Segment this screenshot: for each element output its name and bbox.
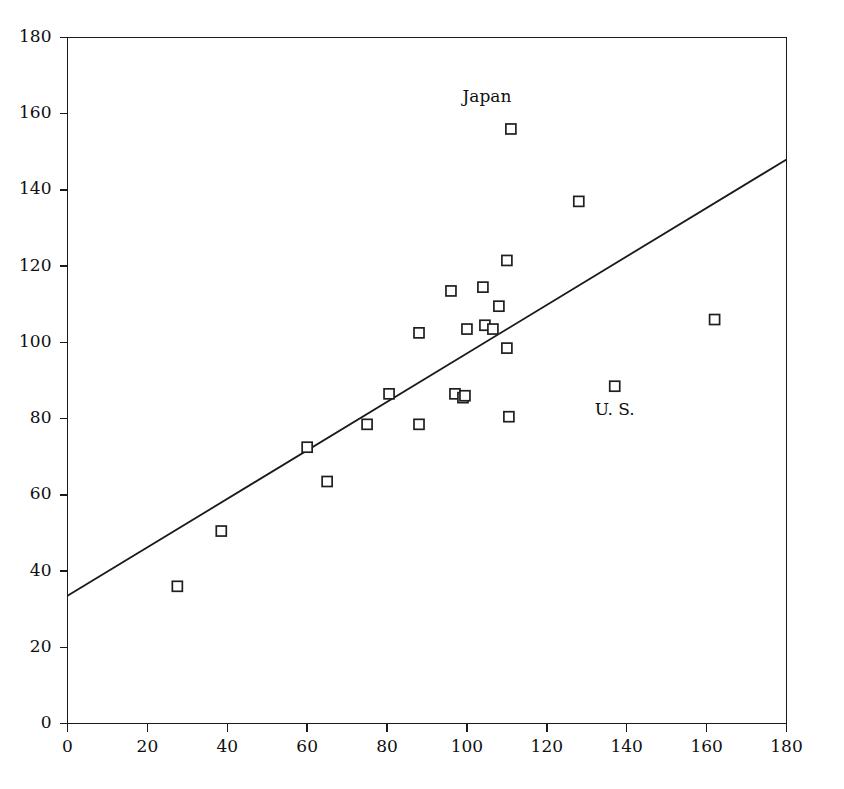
y-tick-label: 160 (19, 102, 51, 122)
x-tick-label: 0 (62, 736, 73, 756)
data-point-marker (488, 324, 498, 334)
scatter-plot-figure: 020406080100120140160180 020406080100120… (0, 0, 844, 789)
chart-svg: 020406080100120140160180 020406080100120… (0, 0, 844, 789)
data-point-marker (610, 381, 620, 391)
data-point-marker (574, 196, 584, 206)
data-point-marker (414, 419, 424, 429)
data-point-marker (478, 282, 488, 292)
annotation-label: Japan (460, 86, 511, 106)
x-tick-label: 180 (770, 736, 802, 756)
data-point-marker (446, 286, 456, 296)
x-tick-label: 160 (690, 736, 722, 756)
data-point-marker (506, 124, 516, 134)
x-tick-label: 40 (216, 736, 238, 756)
point-annotations: JapanU. S. (460, 86, 634, 419)
regression-line-segment (68, 159, 787, 595)
y-tick-label: 40 (30, 560, 52, 580)
x-tick-label: 20 (137, 736, 159, 756)
y-tick-label: 180 (19, 26, 51, 46)
y-tick-label: 140 (19, 178, 51, 198)
x-tick-label: 120 (531, 736, 563, 756)
data-point-marker (502, 343, 512, 353)
y-tick-label: 20 (30, 636, 52, 656)
data-point-marker (462, 324, 472, 334)
data-point-marker (172, 581, 182, 591)
y-tick-label: 80 (30, 407, 52, 427)
data-point-marker (710, 315, 720, 325)
data-point-marker (302, 442, 312, 452)
y-tick-label: 60 (30, 483, 52, 503)
regression-line (68, 159, 787, 595)
data-point-marker (216, 526, 226, 536)
y-tick-label: 0 (41, 712, 52, 732)
data-point-marker (384, 389, 394, 399)
x-tick-label: 140 (610, 736, 642, 756)
data-point-marker (502, 255, 512, 265)
x-axis-ticks: 020406080100120140160180 (62, 724, 803, 757)
data-point-marker (362, 419, 372, 429)
plot-frame (68, 38, 787, 724)
data-point-marker (414, 328, 424, 338)
y-tick-label: 120 (19, 255, 51, 275)
x-tick-label: 80 (376, 736, 398, 756)
x-tick-label: 60 (296, 736, 318, 756)
data-point-marker (460, 391, 470, 401)
data-point-marker (494, 301, 504, 311)
data-point-marker (504, 412, 514, 422)
data-points (172, 124, 719, 591)
y-tick-label: 100 (19, 331, 51, 351)
x-tick-label: 100 (451, 736, 483, 756)
data-point-marker (322, 476, 332, 486)
annotation-label: U. S. (595, 399, 635, 419)
y-axis-ticks: 020406080100120140160180 (19, 26, 67, 732)
plot-frame-rect (68, 38, 787, 724)
